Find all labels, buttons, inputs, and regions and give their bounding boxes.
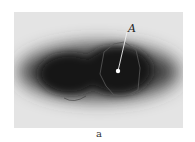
density-image-panel [14,12,183,128]
density-plot [14,12,183,128]
point-label-a: A [128,22,136,35]
subfigure-label: a [96,128,102,139]
point-a-marker [116,69,120,73]
